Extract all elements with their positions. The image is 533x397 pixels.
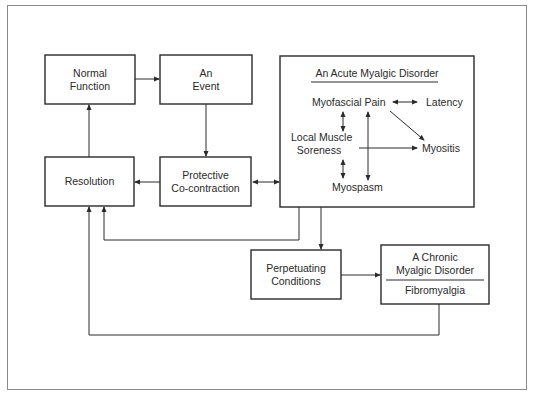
chronic-line1: A Chronic	[381, 251, 489, 264]
perpetuating-line2: Conditions	[251, 275, 341, 288]
chronic-line2: Myalgic Disorder	[381, 264, 489, 277]
an-event-label: An Event	[160, 67, 252, 93]
local-muscle-line1: Local Muscle	[291, 131, 347, 144]
outer-frame	[8, 6, 527, 390]
an-event-line1: An	[160, 67, 252, 80]
local-muscle-line2: Soreness	[291, 144, 347, 157]
protective-line1: Protective	[160, 169, 251, 182]
fibromyalgia-label: Fibromyalgia	[381, 284, 489, 297]
normal-function-line2: Function	[45, 80, 135, 93]
normal-function-line1: Normal	[45, 67, 135, 80]
arrow-pain-myositis	[390, 111, 424, 140]
perpetuating-label: Perpetuating Conditions	[251, 262, 341, 288]
protective-line2: Co-contraction	[160, 182, 251, 195]
arrow-acute-to-resolution	[104, 207, 299, 240]
perpetuating-line1: Perpetuating	[251, 262, 341, 275]
diagram-canvas	[0, 0, 533, 397]
myospasm-label: Myospasm	[332, 181, 383, 194]
normal-function-label: Normal Function	[45, 67, 135, 93]
protective-label: Protective Co-contraction	[160, 169, 251, 195]
an-event-line2: Event	[160, 80, 252, 93]
latency-label: Latency	[426, 96, 463, 109]
myofascial-pain-label: Myofascial Pain	[312, 96, 386, 109]
chronic-label: A Chronic Myalgic Disorder	[381, 251, 489, 277]
local-muscle-soreness-label: Local Muscle Soreness	[291, 131, 347, 157]
acute-title: An Acute Myalgic Disorder	[280, 67, 474, 80]
resolution-label: Resolution	[45, 175, 134, 188]
myositis-label: Myositis	[422, 142, 460, 155]
